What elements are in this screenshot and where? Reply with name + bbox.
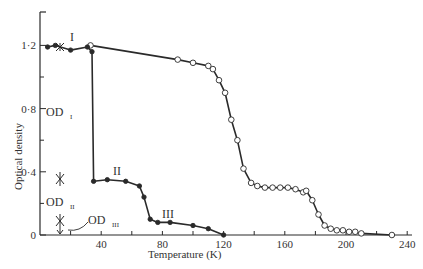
data-point-filled [124,179,128,183]
data-point-open [285,185,291,191]
data-point-open [190,60,196,66]
data-point-open [322,223,328,229]
data-point-open [270,185,276,191]
optical-density-chart: 00·40·81·2 4080120160200240 Temperature … [0,0,423,269]
curve-open-circles [91,45,392,235]
data-point-open [277,185,283,191]
y-axis-title: Optical density [12,123,24,190]
curve-label-I: I [70,30,74,44]
od3-label: OD III [68,213,120,230]
svg-text:OD: OD [46,195,64,209]
data-point-open [216,77,222,83]
data-point-filled [137,184,141,188]
od3-leader-line [68,222,88,230]
x-tick-label: 200 [338,238,355,250]
data-point-open [340,228,346,234]
asterisk-od3 [56,214,64,234]
od2-label: OD II [46,195,75,211]
axes [40,12,412,235]
data-point-open [222,90,228,96]
data-point-open [229,117,235,123]
y-ticks: 00·40·81·2 [21,39,46,241]
data-point-filled [90,50,94,54]
data-point-open [248,180,254,186]
data-point-open [262,185,268,191]
data-point-filled [105,178,109,182]
data-point-filled [45,45,49,49]
svg-text:OD: OD [88,213,106,227]
data-point-filled [68,48,72,52]
svg-text:III: III [112,221,120,229]
x-tick-label: 160 [277,238,294,250]
x-tick-label: 40 [96,238,108,250]
od1-label: OD I [46,105,73,121]
data-point-open [241,166,247,172]
data-point-open [389,232,395,238]
data-point-filled [191,223,195,227]
data-point-filled [91,179,95,183]
data-point-open [310,197,316,203]
x-tick-label: 240 [399,238,416,250]
svg-text:OD: OD [46,105,64,119]
data-point-open [210,66,216,72]
data-point-open [175,57,181,63]
curves [45,43,394,238]
svg-text:II: II [70,203,75,211]
data-point-open [346,229,352,235]
data-point-open [293,186,299,192]
data-point-open [316,212,322,218]
data-point-filled [156,220,160,224]
y-tick-label: 0·8 [21,103,36,115]
x-axis-title: Temperature (K) [148,248,222,261]
data-point-filled [221,233,225,237]
data-point-open [328,226,334,232]
asterisk-od2 [56,172,64,186]
data-point-open [334,228,340,234]
data-point-open [352,229,358,235]
data-point-open [235,137,241,143]
y-tick-label: 0 [31,229,37,241]
data-point-open [359,231,365,237]
data-point-filled [85,45,89,49]
data-point-open [254,183,260,189]
data-point-filled [206,227,210,231]
y-tick-label: 1·2 [21,39,36,51]
data-point-filled [142,195,146,199]
data-point-filled [148,217,152,221]
curve-label-II: II [113,164,121,178]
curve-label-III: III [162,207,174,221]
svg-text:I: I [70,113,73,121]
data-point-open [303,188,309,194]
